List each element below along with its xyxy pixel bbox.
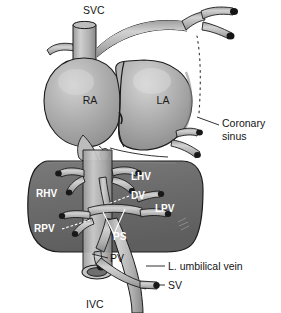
cut-end-rhv-2 (66, 190, 72, 196)
cut-end-lower-branch (227, 32, 235, 39)
ra-highlight (58, 69, 94, 95)
label-rpv: RPV (34, 223, 55, 234)
cut-end-upper-branch (230, 8, 238, 15)
label-dv: DV (131, 190, 145, 201)
right-portal-vein-branch-1 (63, 211, 90, 219)
cut-end-rpv-2 (72, 231, 78, 237)
label-ivc: IVC (86, 298, 104, 310)
label-sv: SV (168, 279, 182, 291)
label-coronary-sinus-line2: sinus (222, 130, 247, 142)
label-ps: PS (113, 231, 127, 242)
label-pv: PV (110, 252, 124, 264)
cut-end-lpv-2 (158, 191, 164, 197)
la-highlight (133, 68, 171, 94)
label-ra: RA (83, 94, 98, 106)
label-umbilical-vein: L. umbilical vein (168, 260, 243, 272)
svc-cut-end (73, 21, 96, 28)
cut-end-rhv-1 (55, 171, 62, 177)
cut-end-coronary-upper (196, 130, 203, 136)
label-lhv: LHV (131, 171, 151, 182)
label-svc: SVC (83, 4, 105, 16)
label-lpv: LPV (155, 203, 175, 214)
fetal-circulation-illustration: SVC Coronary sinus PV L. umbilical vein … (0, 0, 281, 313)
cut-end-rpv-1 (59, 213, 65, 219)
anatomical-diagram: SVC Coronary sinus PV L. umbilical vein … (0, 0, 281, 313)
label-coronary-sinus-line1: Coronary (222, 117, 266, 129)
label-rhv: RHV (36, 188, 57, 199)
label-la: LA (157, 94, 170, 106)
cut-end-coronary-lower (194, 152, 201, 158)
